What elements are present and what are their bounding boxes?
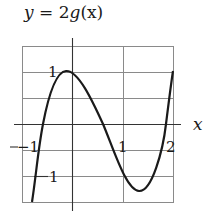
x-axis-label: x bbox=[193, 114, 203, 134]
tick-label-y-neg1: 1 bbox=[49, 168, 59, 186]
plot-area: −1 1 2 1 1 x bbox=[0, 0, 208, 221]
axes bbox=[10, 38, 181, 211]
tick-label-x-neg1: −1 bbox=[17, 138, 39, 156]
tick-label-x-1: 1 bbox=[118, 138, 128, 156]
tick-label-y-1: 1 bbox=[48, 63, 58, 81]
tick-label-x-2: 2 bbox=[166, 138, 176, 156]
